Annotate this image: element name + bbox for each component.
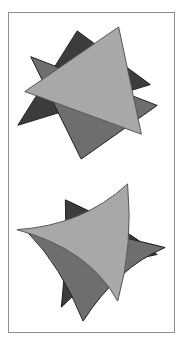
figure-frame (8, 12, 175, 333)
figure-canvas (9, 13, 174, 332)
page-root (0, 0, 185, 344)
lower-figure (17, 184, 165, 321)
upper-figure (18, 27, 157, 159)
